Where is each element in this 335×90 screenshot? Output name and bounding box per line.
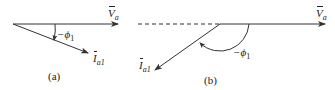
voltage-label-a: Va <box>108 8 119 19</box>
panel-b <box>138 24 325 70</box>
angle-label-a: −ϕ1 <box>57 29 74 40</box>
current-label-a: Ia1 <box>93 53 105 64</box>
voltage-label-b: Va <box>316 8 327 19</box>
caption-a: (a) <box>48 71 60 82</box>
angle-arc-a <box>54 24 55 40</box>
current-phasor-a <box>13 24 88 53</box>
angle-label-b: −ϕ1 <box>233 47 250 58</box>
current-phasor-b <box>155 24 220 70</box>
caption-b: (b) <box>204 75 217 86</box>
current-label-b: Ia1 <box>139 60 151 71</box>
